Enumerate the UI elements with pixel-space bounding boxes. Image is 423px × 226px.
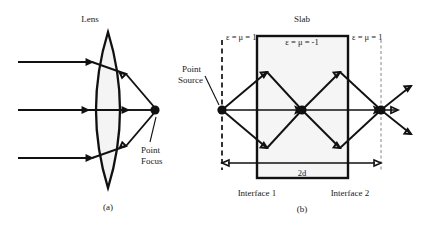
slab-ray-diverging-upper [381,86,411,110]
slab-title: Slab [294,14,311,24]
region-label-right-vacuum: ε = μ = 1 [352,32,382,42]
panel-b-slab-diagram: Slab ε = μ = 1 ε = μ = -1 ε = μ = 1 Poin… [0,0,423,226]
point-source-leader [205,76,219,105]
external-focus-dot [376,105,385,114]
physics-figure: Lens Point Focus (a) [0,0,423,226]
slab-ray-diverging-lower [381,110,411,134]
point-source-dot [217,105,226,114]
panel-b-caption: (b) [297,204,308,214]
point-source-label-line1: Point [182,64,202,74]
point-source-label-line2: Source [178,75,203,85]
interface-1-label: Interface 1 [238,188,277,198]
internal-focus-dot [297,105,306,114]
thickness-label: 2d [298,168,307,178]
region-label-left-vacuum: ε = μ = 1 [226,32,256,42]
interface-2-label: Interface 2 [331,188,370,198]
region-label-slab-medium: ε = μ = -1 [285,37,318,47]
